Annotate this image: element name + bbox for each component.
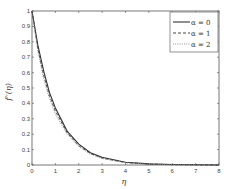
x-tick-label: 2 (77, 168, 81, 174)
x-axis-label: η (122, 177, 127, 186)
x-tick-label: 8 (217, 168, 221, 174)
y-tick-label: 0.4 (22, 100, 31, 106)
x-tick-label: 7 (194, 168, 198, 174)
legend-label: α = 1 (191, 30, 211, 38)
x-tick-label: 0 (30, 168, 34, 174)
y-tick-label: 0.5 (22, 85, 31, 91)
x-tick-label: 3 (100, 168, 104, 174)
legend-label: α = 2 (191, 41, 211, 49)
x-tick-label: 4 (124, 168, 128, 174)
y-axis-label: f′′(η) (4, 83, 13, 102)
legend: α = 0α = 1α = 2 (170, 12, 218, 52)
legend-label: α = 0 (191, 19, 211, 27)
y-tick-label: 0.3 (22, 116, 31, 122)
line-chart: 01234567800.10.20.30.40.50.60.70.80.91 α… (0, 0, 231, 189)
x-tick-label: 6 (171, 168, 175, 174)
y-tick-label: 0.8 (22, 39, 31, 45)
y-tick-label: 0.2 (22, 131, 31, 137)
y-tick-label: 1 (27, 8, 31, 14)
y-tick-label: 0.7 (22, 54, 31, 60)
x-tick-label: 1 (54, 168, 58, 174)
x-tick-label: 5 (147, 168, 151, 174)
y-tick-label: 0.1 (22, 147, 31, 153)
y-tick-label: 0.9 (22, 23, 31, 29)
y-tick-label: 0.6 (22, 70, 31, 76)
